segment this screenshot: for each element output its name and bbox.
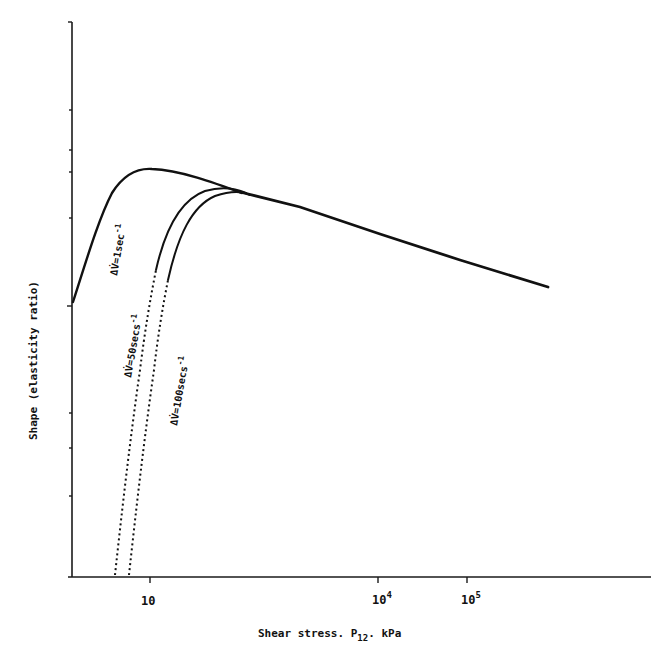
curve-label-50secs: ΔV̇=50secs-1 [119, 313, 144, 378]
x-tick-label-10-4: 104 [372, 590, 392, 607]
x-axis-label: Shear stress. P12. kPa [258, 627, 401, 643]
curve-label-1sec: ΔV̇=1sec-1 [105, 223, 128, 277]
curve-label-100secs: ΔV̇=100secs-1 [165, 355, 191, 426]
y-axis-label: Shape (elasticity ratio) [27, 281, 40, 440]
x-tick-label-10-5: 105 [461, 590, 481, 607]
x-ticks [150, 577, 467, 583]
curve-100secs-solid [168, 192, 250, 280]
chart: 10 104 105 Shear stress. P12. kPa Shape … [0, 0, 671, 666]
x-tick-label-10: 10 [141, 594, 155, 608]
curve-50secs-solid [156, 188, 246, 270]
curve-merged [240, 192, 548, 287]
